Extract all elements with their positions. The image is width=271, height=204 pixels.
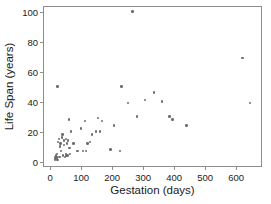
- data-point: [86, 142, 88, 144]
- data-point: [82, 150, 84, 152]
- data-point: [161, 100, 163, 102]
- x-axis-tick: [143, 166, 144, 170]
- data-point: [56, 153, 58, 155]
- data-point: [89, 141, 91, 143]
- x-axis-tick: [112, 166, 113, 170]
- data-point: [67, 139, 69, 141]
- y-axis-tick-label: 0: [33, 156, 38, 167]
- y-axis-tick-label: 20: [27, 126, 38, 137]
- data-point: [241, 57, 243, 59]
- x-axis-tick-label: 500: [197, 172, 213, 183]
- data-point: [171, 118, 173, 120]
- data-point: [168, 115, 170, 117]
- x-axis-tick-label: 200: [104, 172, 120, 183]
- data-point: [101, 120, 103, 122]
- y-axis-tick: [40, 42, 44, 43]
- x-axis-tick-label: 600: [228, 172, 244, 183]
- data-point: [69, 153, 71, 155]
- data-point: [58, 156, 60, 158]
- data-point: [84, 120, 86, 122]
- data-point: [120, 85, 122, 87]
- data-point: [72, 142, 74, 144]
- x-axis-tick: [205, 166, 206, 170]
- data-point: [63, 144, 65, 146]
- data-point: [144, 99, 146, 101]
- y-axis-tick-label: 80: [27, 36, 38, 47]
- data-point: [61, 133, 63, 135]
- data-point: [59, 142, 61, 144]
- y-axis-tick: [40, 162, 44, 163]
- x-axis-tick-label: 400: [166, 172, 182, 183]
- x-axis-tick: [174, 166, 175, 170]
- data-point: [99, 130, 101, 132]
- data-point: [109, 148, 111, 150]
- data-point: [58, 138, 60, 140]
- data-point: [68, 118, 70, 120]
- x-axis-tick: [50, 166, 51, 170]
- data-point: [95, 130, 97, 132]
- y-axis-tick-label: 60: [27, 66, 38, 77]
- data-point: [131, 10, 133, 12]
- data-point: [97, 117, 99, 119]
- x-axis-tick: [236, 166, 237, 170]
- y-axis-title: Life Span (years): [2, 6, 16, 167]
- y-axis-tick-label: 100: [22, 6, 38, 17]
- x-axis-tick-label: 300: [135, 172, 151, 183]
- y-axis-tick: [40, 12, 44, 13]
- data-point: [119, 150, 121, 152]
- y-axis-tick: [40, 72, 44, 73]
- data-point: [76, 150, 78, 152]
- data-point: [127, 102, 129, 104]
- data-point: [136, 115, 138, 117]
- data-point: [153, 91, 155, 93]
- data-point: [56, 85, 58, 87]
- data-point: [68, 147, 70, 149]
- data-point: [56, 159, 58, 161]
- x-axis-tick-label: 0: [48, 172, 53, 183]
- data-point: [91, 133, 93, 135]
- plot-area: 0204060801000100200300400500600: [43, 6, 262, 167]
- data-point: [249, 102, 251, 104]
- x-axis-tick: [81, 166, 82, 170]
- data-point: [80, 127, 82, 129]
- data-point: [113, 124, 115, 126]
- data-point: [70, 130, 72, 132]
- y-axis-tick-label: 40: [27, 96, 38, 107]
- data-point: [60, 150, 62, 152]
- y-axis-tick: [40, 132, 44, 133]
- x-axis-tick-label: 100: [73, 172, 89, 183]
- data-point: [66, 142, 68, 144]
- data-points-layer: [44, 7, 261, 166]
- x-axis-title: Gestation (days): [43, 184, 262, 196]
- data-point: [185, 124, 187, 126]
- y-axis-tick: [40, 102, 44, 103]
- data-point: [59, 145, 61, 147]
- scatter-plot-figure: Life Span (years) 0204060801000100200300…: [0, 0, 271, 204]
- data-point: [85, 150, 87, 152]
